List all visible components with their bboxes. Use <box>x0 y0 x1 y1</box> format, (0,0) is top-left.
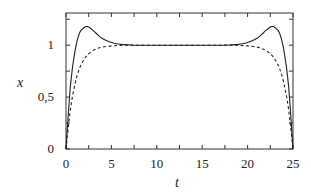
x-tick-label: 0 <box>63 156 70 171</box>
data-series <box>66 26 293 149</box>
x-tick-label: 20 <box>241 156 254 171</box>
plot-frame <box>66 13 293 149</box>
x-axis-label: t <box>175 175 180 190</box>
x-tick-label: 15 <box>196 156 209 171</box>
series-dashed-line <box>66 45 293 149</box>
x-tick-label: 5 <box>108 156 115 171</box>
line-chart: 051015202500,51 x t <box>0 0 311 195</box>
y-tick-label: 1 <box>48 37 55 52</box>
y-tick-label: 0 <box>48 141 55 156</box>
series-solid-line <box>66 26 293 149</box>
x-tick-label: 25 <box>287 156 300 171</box>
plot-border <box>66 13 293 149</box>
axis-ticks <box>66 13 293 149</box>
y-axis-label: x <box>16 75 24 90</box>
tick-labels: 051015202500,51 <box>38 37 300 171</box>
y-tick-label: 0,5 <box>38 89 54 104</box>
x-tick-label: 10 <box>150 156 163 171</box>
